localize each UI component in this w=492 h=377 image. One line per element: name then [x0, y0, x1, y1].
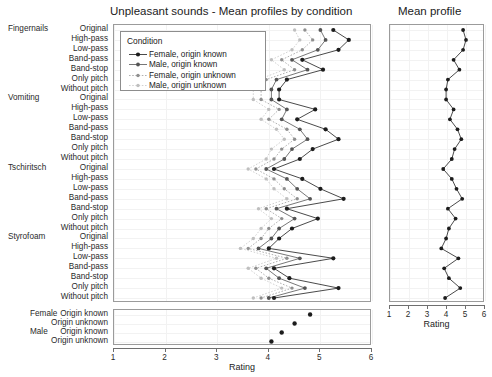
data-point [264, 266, 268, 270]
data-point [293, 138, 296, 141]
data-point [306, 68, 310, 72]
data-point [265, 157, 268, 160]
y-label-condition: Without pitch [61, 154, 108, 162]
data-point [450, 157, 454, 161]
data-point [285, 207, 289, 211]
main-panel-title: Unpleasant sounds - Mean profiles by con… [110, 5, 352, 17]
data-point [283, 187, 286, 190]
data-point [448, 117, 452, 121]
legend-marker-icon [127, 60, 149, 69]
data-point [267, 227, 270, 230]
data-point [257, 247, 261, 251]
data-point [443, 296, 447, 300]
data-point [457, 256, 461, 260]
data-point [270, 98, 274, 102]
y-label-condition: Original [80, 233, 108, 241]
legend-item[interactable]: Male, origin unknown [127, 81, 260, 91]
data-point [259, 237, 262, 240]
mean-profile-series-layer [390, 25, 485, 303]
axis-tick-label: 4 [436, 310, 456, 319]
data-point [447, 276, 451, 280]
data-point [280, 217, 283, 220]
data-point [446, 207, 450, 211]
data-point [270, 58, 273, 61]
data-point [239, 247, 242, 250]
y-label-condition: High-pass [71, 104, 108, 112]
data-point [252, 98, 255, 101]
data-point [308, 197, 312, 201]
data-point [280, 58, 283, 61]
data-point [446, 78, 450, 82]
y-label-condition: Original [80, 25, 108, 33]
data-point [264, 167, 268, 171]
x-axis-title: Rating [202, 362, 282, 372]
data-point [447, 227, 451, 231]
data-point [267, 108, 270, 111]
data-point [290, 48, 293, 51]
data-point [303, 286, 307, 290]
data-point [277, 227, 281, 231]
legend-item[interactable]: Female, origin unknown [127, 70, 260, 80]
data-point [461, 48, 465, 52]
y-label-condition: Band-pass [69, 194, 108, 202]
series-line [259, 30, 326, 298]
y-label-condition: Original [80, 94, 108, 102]
data-point [277, 276, 281, 280]
data-point [285, 78, 289, 82]
data-point [295, 187, 299, 191]
data-point [270, 147, 273, 150]
data-point [461, 28, 465, 32]
y-label-condition: High-pass [71, 35, 108, 43]
legend-item[interactable]: Male, origin known [127, 60, 260, 70]
data-point [265, 177, 268, 180]
y-label-condition: Low-pass [73, 253, 108, 261]
data-point [267, 277, 270, 280]
y-label-condition: Low-pass [73, 184, 108, 192]
data-point [296, 197, 299, 200]
gridline-vertical [485, 25, 486, 301]
data-point [272, 187, 275, 190]
data-point [267, 118, 270, 121]
y-label-condition: Band-pass [69, 263, 108, 271]
data-point [283, 138, 286, 141]
data-point [460, 197, 464, 201]
data-point [259, 296, 262, 299]
data-point [267, 296, 271, 300]
gridline-vertical [372, 25, 373, 301]
data-point [285, 257, 288, 260]
data-point [275, 78, 279, 82]
legend-item[interactable]: Female, origin known [127, 49, 260, 59]
data-point [298, 38, 301, 41]
axis-tick [427, 305, 428, 309]
data-point [311, 38, 314, 41]
axis-tick-label: 6 [361, 353, 381, 362]
data-point [252, 296, 255, 299]
y-label-group: Vomiting [8, 94, 39, 102]
y-label-condition: Original [80, 164, 108, 172]
data-point [442, 266, 446, 270]
data-point [280, 147, 283, 150]
legend-marker-icon [127, 71, 149, 80]
data-point [306, 137, 310, 141]
data-point [318, 187, 322, 191]
y-label-group: Tschiritsch [8, 164, 46, 172]
y-label-condition: High-pass [71, 174, 108, 182]
axis-tick-label: 2 [155, 353, 175, 362]
data-point [254, 167, 257, 170]
data-point [290, 58, 294, 62]
data-point [270, 88, 274, 92]
data-point [298, 157, 302, 161]
data-point [282, 157, 286, 161]
data-point [270, 237, 274, 241]
data-point [259, 118, 262, 121]
data-point [272, 296, 276, 300]
data-point [459, 137, 463, 141]
marginal-y-label: Origin unknown [51, 319, 108, 327]
data-point [247, 267, 250, 270]
data-point [287, 276, 291, 280]
data-point [311, 147, 315, 151]
legend-item-label: Female, origin unknown [149, 71, 236, 80]
data-point [316, 217, 320, 221]
data-point [441, 167, 445, 171]
series-line [441, 30, 466, 298]
